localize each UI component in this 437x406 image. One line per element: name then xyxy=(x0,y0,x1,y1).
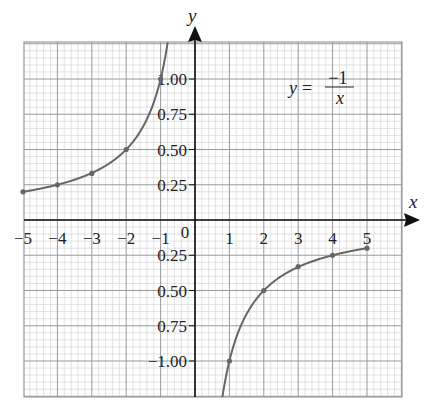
y-axis-title: y xyxy=(186,5,197,26)
equation-numerator: −1 xyxy=(328,68,347,88)
equation-label: y = −1 x xyxy=(287,68,354,108)
y-tick-label: −1.00 xyxy=(148,352,187,371)
x-tick-label: −2 xyxy=(117,229,135,248)
y-tick-label: 0.75 xyxy=(157,105,187,124)
data-point xyxy=(330,253,335,258)
x-tick-label: 3 xyxy=(294,229,303,248)
x-tick-label: 5 xyxy=(363,229,372,248)
data-point xyxy=(20,189,25,194)
data-point xyxy=(55,182,60,187)
data-point xyxy=(296,264,301,269)
x-tick-label: −4 xyxy=(48,229,67,248)
data-point xyxy=(89,171,94,176)
x-tick-label: 1 xyxy=(225,229,234,248)
x-tick-label: −1 xyxy=(152,229,170,248)
y-tick-label: 0.50 xyxy=(157,282,187,301)
x-tick-label: 4 xyxy=(328,229,337,248)
y-axis-arrow-icon xyxy=(188,26,202,42)
data-point xyxy=(364,246,369,251)
x-tick-label: −3 xyxy=(83,229,101,248)
data-point xyxy=(227,358,232,363)
y-tick-label: 0.25 xyxy=(157,176,187,195)
equation-lhs: y xyxy=(287,78,297,98)
x-axis-arrow-icon xyxy=(404,213,420,227)
x-tick-label: 0 xyxy=(181,223,190,242)
y-tick-label: 0.75 xyxy=(157,317,187,336)
curve-right-branch xyxy=(222,248,367,397)
x-axis-title: x xyxy=(408,191,418,212)
x-tick-label: −5 xyxy=(14,229,32,248)
y-tick-label: 0.25 xyxy=(157,246,187,265)
equation-equals: = xyxy=(302,78,312,98)
data-point xyxy=(158,76,163,81)
data-point xyxy=(124,147,129,152)
x-tick-label: 2 xyxy=(260,229,269,248)
y-tick-label: 0.50 xyxy=(157,141,187,160)
equation-denominator: x xyxy=(335,88,344,108)
graph-reciprocal-function: x y −5−4−3−2−1012345 0.250.500.751.000.2… xyxy=(0,0,437,406)
data-point xyxy=(261,288,266,293)
